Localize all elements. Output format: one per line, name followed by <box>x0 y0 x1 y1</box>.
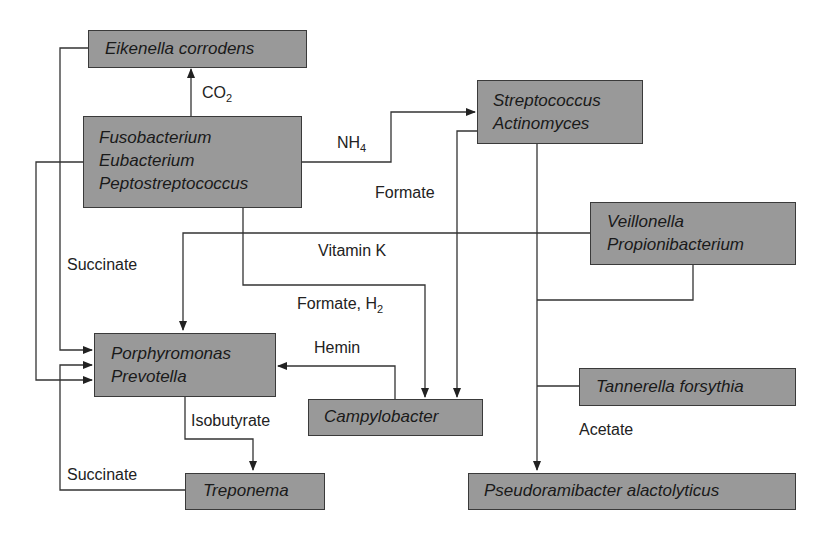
edge-formate <box>457 131 477 397</box>
node-label: Campylobacter <box>324 405 482 428</box>
edge-vitamin-k <box>183 233 590 330</box>
label-co2: CO2 <box>202 84 232 104</box>
label-vitamin-k: Vitamin K <box>318 242 386 260</box>
node-label: Eubacterium <box>99 149 301 172</box>
node-fusobacterium-group: Fusobacterium Eubacterium Peptostreptoco… <box>83 116 302 208</box>
label-formate: Formate <box>375 184 435 202</box>
node-label: Streptococcus <box>493 89 642 112</box>
label-acetate: Acetate <box>579 421 633 439</box>
label-text: NH <box>337 134 360 151</box>
node-porphyromonas-group: Porphyromonas Prevotella <box>94 333 276 397</box>
label-isobutyrate: Isobutyrate <box>191 412 270 430</box>
node-pseudoramibacter: Pseudoramibacter alactolyticus <box>468 473 796 510</box>
node-veillonella-group: Veillonella Propionibacterium <box>590 202 796 265</box>
node-label: Treponema <box>203 479 324 502</box>
node-label: Propionibacterium <box>607 233 795 256</box>
label-nh4: NH4 <box>337 134 366 154</box>
label-subscript: 2 <box>377 303 383 315</box>
node-eikenella: Eikenella corrodens <box>88 30 307 68</box>
edge-nh4 <box>302 112 475 162</box>
node-campylobacter: Campylobacter <box>308 399 483 436</box>
label-succinate-bottom: Succinate <box>67 466 137 484</box>
node-label: Fusobacterium <box>99 126 301 149</box>
label-formate-h2: Formate, H2 <box>297 295 383 315</box>
node-tannerella: Tannerella forsythia <box>579 368 796 406</box>
label-text: Formate, H <box>297 295 377 312</box>
label-subscript: 2 <box>226 92 232 104</box>
node-label: Eikenella corrodens <box>105 37 306 60</box>
node-label: Pseudoramibacter alactolyticus <box>484 479 795 502</box>
node-label: Tannerella forsythia <box>596 375 795 398</box>
node-label: Prevotella <box>111 365 275 388</box>
edge-veillonella-acetate <box>537 264 693 300</box>
label-subscript: 4 <box>360 142 366 154</box>
node-treponema: Treponema <box>185 473 325 510</box>
edge-hemin <box>278 366 395 399</box>
node-label: Veillonella <box>607 210 795 233</box>
label-text: CO <box>202 84 226 101</box>
node-label: Peptostreptococcus <box>99 172 301 195</box>
node-streptococcus-group: Streptococcus Actinomyces <box>477 80 643 144</box>
edge-isobutyrate <box>185 396 253 470</box>
node-label: Porphyromonas <box>111 342 275 365</box>
label-hemin: Hemin <box>314 339 360 357</box>
label-succinate-top: Succinate <box>67 256 137 274</box>
node-label: Actinomyces <box>493 112 642 135</box>
metabolic-interaction-diagram: Eikenella corrodens Fusobacterium Eubact… <box>0 0 825 534</box>
